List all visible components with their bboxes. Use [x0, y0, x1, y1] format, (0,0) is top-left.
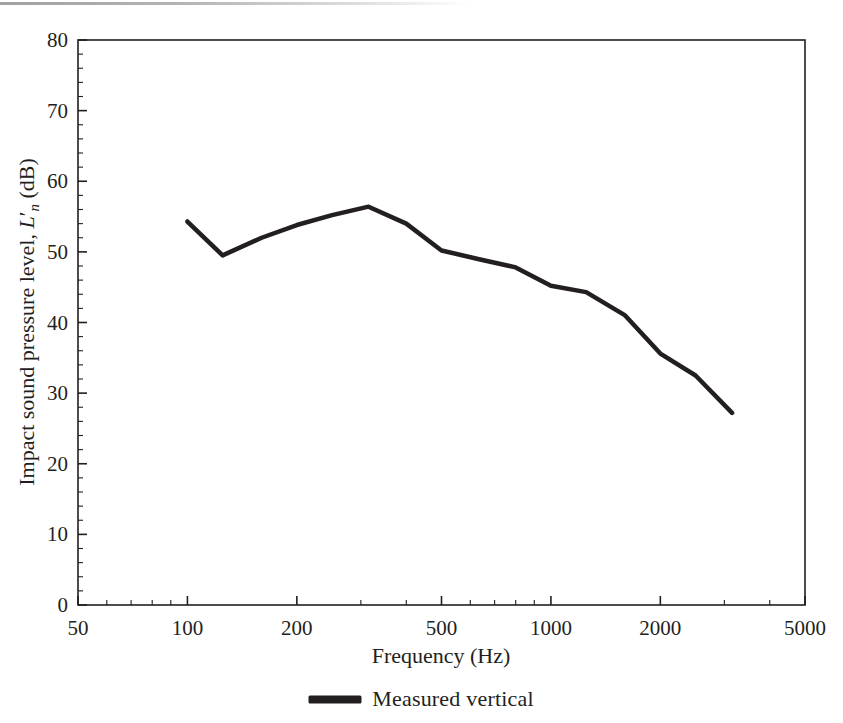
- y-axis-tick-labels: 01020304050607080: [47, 28, 68, 617]
- figure-root: 50100200500100020005000 0102030405060708…: [0, 0, 843, 723]
- plot-frame-rect: [78, 40, 805, 605]
- x-axis-title: Frequency (Hz): [372, 643, 511, 668]
- y-tick-label: 30: [47, 381, 68, 405]
- legend-swatch-measured-vertical: [309, 696, 361, 703]
- y-tick-label: 60: [47, 169, 68, 193]
- y-tick-label: 50: [47, 240, 68, 264]
- x-tick-label: 1000: [530, 616, 572, 640]
- y-tick-label: 0: [58, 593, 69, 617]
- chart-plot-area: 50100200500100020005000 0102030405060708…: [0, 0, 843, 723]
- y-tick-label: 70: [47, 99, 68, 123]
- x-tick-label: 200: [281, 616, 313, 640]
- x-axis-tick-labels: 50100200500100020005000: [68, 616, 827, 640]
- series-line-measured-vertical: [187, 207, 732, 413]
- x-tick-label: 2000: [639, 616, 681, 640]
- x-axis-major-ticks: [78, 596, 805, 605]
- x-tick-label: 100: [172, 616, 204, 640]
- y-tick-label: 10: [47, 522, 68, 546]
- y-tick-label: 20: [47, 452, 68, 476]
- y-axis-title: Impact sound pressure level, L′n (dB): [14, 158, 42, 486]
- y-tick-label: 40: [47, 311, 68, 335]
- y-tick-label: 80: [47, 28, 68, 52]
- chart-legend: Measured vertical: [0, 686, 843, 712]
- x-tick-label: 50: [68, 616, 89, 640]
- x-tick-label: 500: [426, 616, 458, 640]
- legend-label-measured-vertical: Measured vertical: [372, 686, 534, 712]
- axes-frame: [78, 40, 805, 605]
- line-chart-svg: 50100200500100020005000 0102030405060708…: [0, 0, 843, 723]
- data-series-group: [187, 207, 732, 413]
- x-tick-label: 5000: [784, 616, 826, 640]
